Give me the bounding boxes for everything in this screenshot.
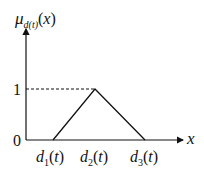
x-tick-d2: d2(t) <box>80 148 108 168</box>
y-tick-1: 1 <box>13 81 21 98</box>
x-axis-label: x <box>186 129 195 148</box>
y-axis-label: μd(t)(x) <box>14 9 56 31</box>
triangle-function <box>53 89 145 140</box>
x-tick-d1: d1(t) <box>36 148 64 168</box>
x-tick-d3: d3(t) <box>130 148 158 168</box>
membership-diagram: μd(t)(x) 1 0 x d1(t) d2(t) d3(t) <box>0 0 204 170</box>
y-tick-0: 0 <box>13 132 21 149</box>
